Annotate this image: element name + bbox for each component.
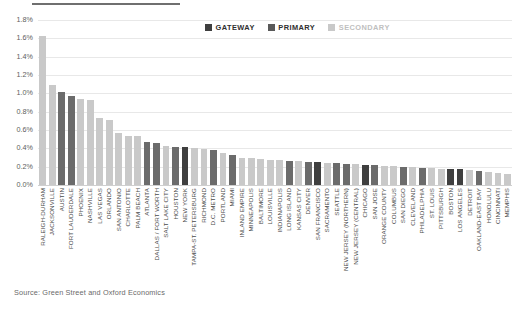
x-axis-label-slot: INDIANAPOLIS xyxy=(275,188,284,274)
bar xyxy=(77,99,84,185)
bar xyxy=(400,167,407,185)
bar xyxy=(267,160,274,185)
bar-slot xyxy=(57,20,66,185)
x-axis-tick-label: SAN ANTONIO xyxy=(116,188,122,231)
bar xyxy=(438,169,445,186)
x-axis-label-slot: CHICAGO xyxy=(360,188,369,274)
x-axis-label-slot: NEW JERSEY (NORTHERN) xyxy=(342,188,351,274)
bar xyxy=(125,136,132,185)
bar xyxy=(314,162,321,185)
bar xyxy=(182,147,189,185)
x-axis-label-slot: LAS VEGAS xyxy=(95,188,104,274)
x-axis-label-slot: RALEIGH-DURHAM xyxy=(38,188,47,274)
y-axis-tick-label: 0.8% xyxy=(17,108,33,115)
x-axis-label-slot: ST. LOUIS xyxy=(427,188,436,274)
x-axis-tick-label: LAS VEGAS xyxy=(97,188,103,224)
x-axis-label-slot: LOS ANGELES xyxy=(455,188,464,274)
x-axis-tick-label: SACRAMENTO xyxy=(324,188,330,233)
x-axis-tick-label: DALLAS / FORT WORTH xyxy=(153,188,159,260)
bar-slot xyxy=(398,20,407,185)
x-axis-tick-label: ORANGE COUNTY xyxy=(381,188,387,244)
x-axis-label-slot: SALT LAKE CITY xyxy=(161,188,170,274)
x-axis-tick-label: ORLANDO xyxy=(106,188,112,219)
x-axis-label-slot: DALLAS / FORT WORTH xyxy=(152,188,161,274)
bar xyxy=(371,165,378,185)
x-axis-tick-label: ST. LOUIS xyxy=(428,188,434,218)
bar-slot xyxy=(171,20,180,185)
bar xyxy=(305,162,312,185)
bar-slot xyxy=(323,20,332,185)
bar xyxy=(39,36,46,185)
x-axis-label-slot: SAN ANTONIO xyxy=(114,188,123,274)
bar xyxy=(153,143,160,185)
x-axis-tick-label: MINNEAPOLIS xyxy=(248,188,254,231)
bar-slot xyxy=(199,20,208,185)
bar-slot xyxy=(133,20,142,185)
x-axis-label-slot: NASHVILLE xyxy=(85,188,94,274)
bar-slot xyxy=(446,20,455,185)
x-axis-label-slot: SAN FRANCISCO xyxy=(313,188,322,274)
x-axis-tick-label: KANSAS CITY xyxy=(296,188,302,230)
bar-slot xyxy=(465,20,474,185)
bar xyxy=(324,163,331,185)
bar-slot xyxy=(285,20,294,185)
x-axis-tick-label: NEW JERSEY (NORTHERN) xyxy=(343,188,349,271)
x-axis-label-slot: LOUISVILLE xyxy=(266,188,275,274)
bar xyxy=(390,166,397,185)
bar xyxy=(447,169,454,186)
x-axis-tick-label: HOUSTON xyxy=(172,188,178,220)
bar xyxy=(220,153,227,185)
bar-slot xyxy=(408,20,417,185)
bar-slot xyxy=(294,20,303,185)
x-axis-tick-label: LOS ANGELES xyxy=(457,188,463,232)
x-axis-tick-label: TAMPA-ST. PETERSBURG xyxy=(191,188,197,266)
bar-slot xyxy=(266,20,275,185)
bar-slot xyxy=(417,20,426,185)
bar xyxy=(286,161,293,185)
bar-slot xyxy=(114,20,123,185)
bar-slot xyxy=(455,20,464,185)
x-axis-tick-label: MEMPHIS xyxy=(504,188,510,218)
x-axis-tick-label: CHARLOTTE xyxy=(125,188,131,226)
bar-slot xyxy=(275,20,284,185)
x-axis-tick-label: AUSTIN xyxy=(59,188,65,211)
x-axis-label-slot: BOSTON xyxy=(446,188,455,274)
x-axis-tick-label: HONOLULU xyxy=(485,188,491,223)
x-axis-tick-label: PHILADELPHIA xyxy=(419,188,425,234)
x-axis-label-slot: SEATTLE xyxy=(332,188,341,274)
bar-slot xyxy=(228,20,237,185)
bar xyxy=(106,120,113,185)
x-axis-tick-label: PALM BEACH xyxy=(134,188,140,228)
bar xyxy=(201,149,208,185)
bar xyxy=(381,166,388,185)
bar-slot xyxy=(493,20,502,185)
x-axis-tick-label: OAKLAND-EAST BAY xyxy=(476,188,482,251)
y-axis-tick-label: 0.6% xyxy=(17,126,33,133)
x-axis-tick-label: SAN JOSE xyxy=(372,188,378,219)
x-axis-label-slot: DETROIT xyxy=(465,188,474,274)
bar-slot xyxy=(152,20,161,185)
bar xyxy=(96,118,103,185)
bar-slot xyxy=(76,20,85,185)
bar-slot xyxy=(427,20,436,185)
bar xyxy=(248,158,255,185)
bar xyxy=(485,172,492,185)
bar xyxy=(295,161,302,185)
x-axis-tick-label: PHOENIX xyxy=(78,188,84,217)
x-axis-tick-label: BALTIMORE xyxy=(258,188,264,224)
bar xyxy=(257,159,264,185)
bar xyxy=(409,167,416,185)
bar-slot xyxy=(161,20,170,185)
x-axis-label-slot: SAN DIEGO xyxy=(398,188,407,274)
x-axis-tick-label: CINCINNATI xyxy=(495,188,501,224)
x-axis-tick-label: INLAND EMPIRE xyxy=(239,188,245,237)
bar xyxy=(163,146,170,185)
y-axis-tick-label: 1.6% xyxy=(17,35,33,42)
x-axis-tick-label: BOSTON xyxy=(447,188,453,215)
x-axis-tick-label: RICHMOND xyxy=(201,188,207,223)
bar-slot xyxy=(95,20,104,185)
x-axis-tick-label: NASHVILLE xyxy=(87,188,93,223)
x-axis-tick-label: DENVER xyxy=(305,188,311,214)
y-axis-tick-label: 1.2% xyxy=(17,71,33,78)
x-axis-tick-label: SAN FRANCISCO xyxy=(315,188,321,240)
